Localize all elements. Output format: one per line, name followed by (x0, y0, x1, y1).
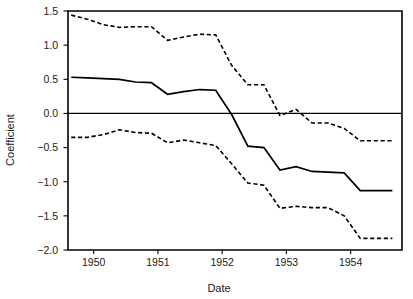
y-axis-label: Coefficient (4, 114, 16, 166)
x-axis-label: Date (207, 282, 230, 294)
y-tick-label: 1.0 (43, 39, 58, 51)
y-tick-label: 1.5 (43, 5, 58, 17)
y-tick-label: −1.5 (37, 210, 58, 222)
y-tick-label: −2.0 (37, 244, 58, 256)
x-tick-label: 1950 (82, 256, 106, 268)
y-tick-label: −1.0 (37, 176, 58, 188)
y-tick-label: 0.5 (43, 73, 58, 85)
x-tick-label: 1951 (146, 256, 170, 268)
x-tick-label: 1952 (210, 256, 234, 268)
y-tick-label: 0.0 (43, 107, 58, 119)
chart-background (0, 0, 413, 299)
y-tick-label: −0.5 (37, 141, 58, 153)
x-tick-label: 1954 (339, 256, 363, 268)
coefficient-over-time-chart: −2.0−1.5−1.0−0.50.00.51.01.5 19501951195… (0, 0, 413, 299)
x-tick-label: 1953 (275, 256, 299, 268)
